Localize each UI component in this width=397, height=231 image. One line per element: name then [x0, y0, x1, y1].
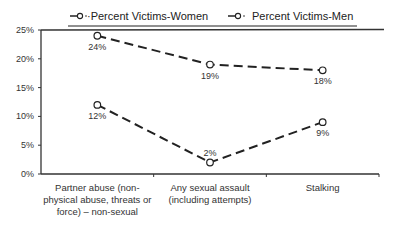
data-label: 24% [88, 42, 106, 52]
series-layer: 24%19%18%12%2%9% [88, 32, 331, 165]
y-tick-label: 15% [16, 83, 34, 93]
data-label: 18% [314, 76, 332, 86]
legend-dot-icon [243, 15, 245, 17]
legend-item: ·Percent Victims-Women [70, 10, 208, 22]
y-tick-label: 0% [21, 169, 34, 179]
x-category-label-line: physical abuse, threats or [43, 194, 151, 205]
x-category-label-line: Partner abuse (non- [55, 182, 140, 193]
x-category-label-line: Any sexual assault [170, 182, 250, 193]
legend: ·Percent Victims-WomenPercent Victims-Me… [68, 10, 357, 26]
data-label: 19% [201, 71, 219, 81]
plot-top-border [41, 30, 384, 31]
legend-item: Percent Victims-Men [228, 10, 353, 22]
y-tick-label: 10% [16, 111, 34, 121]
legend-marker-icon [77, 13, 82, 18]
legend-label: Percent Victims-Men [252, 10, 353, 22]
legend-label: ·Percent Victims-Women [87, 10, 208, 22]
series-men: 12%2%9% [88, 102, 329, 166]
x-category-label-line: (including attempts) [169, 194, 252, 205]
legend-marker-icon [235, 13, 240, 18]
data-point [207, 61, 214, 68]
data-label: 9% [316, 128, 329, 138]
y-tick-label: 5% [21, 140, 34, 150]
data-label: 12% [88, 111, 106, 121]
x-category-label: Any sexual assault(including attempts) [169, 182, 252, 205]
x-category-label-line: force) – non-sexual [57, 206, 138, 217]
data-point [94, 32, 101, 39]
data-point [207, 159, 214, 166]
data-point [319, 67, 326, 74]
line-chart: ·Percent Victims-WomenPercent Victims-Me… [0, 0, 397, 231]
x-category-label: Stalking [306, 182, 340, 193]
axes: 0%5%10%15%20%25%Partner abuse (non-physi… [16, 25, 384, 217]
data-point [94, 102, 101, 109]
data-label: 2% [203, 148, 216, 158]
y-tick-label: 20% [16, 54, 34, 64]
x-category-label-line: Stalking [306, 182, 340, 193]
series-women: 24%19%18% [88, 32, 331, 86]
data-point [319, 119, 326, 126]
x-category-label: Partner abuse (non-physical abuse, threa… [43, 182, 151, 217]
y-tick-label: 25% [16, 25, 34, 35]
